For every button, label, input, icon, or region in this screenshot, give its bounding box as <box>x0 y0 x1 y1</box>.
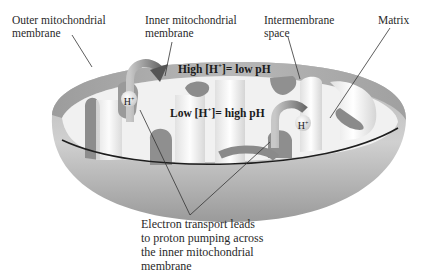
inner-membrane-label: Inner mitochondrial membrane <box>145 14 237 40</box>
intermembrane-space-label: Intermembrane space <box>264 14 334 40</box>
high-h-region-label: High [H+]= low pH <box>178 60 271 76</box>
proton-ion-right: H+ <box>295 115 311 131</box>
caption-electron-transport: Electron transport leads to proton pumpi… <box>141 217 263 273</box>
matrix-label: Matrix <box>378 14 409 27</box>
proton-ion-left: H+ <box>121 91 137 107</box>
outer-membrane-label: Outer mitochondrial membrane <box>12 14 106 40</box>
low-h-region-label: Low [H+]= high pH <box>170 104 265 120</box>
